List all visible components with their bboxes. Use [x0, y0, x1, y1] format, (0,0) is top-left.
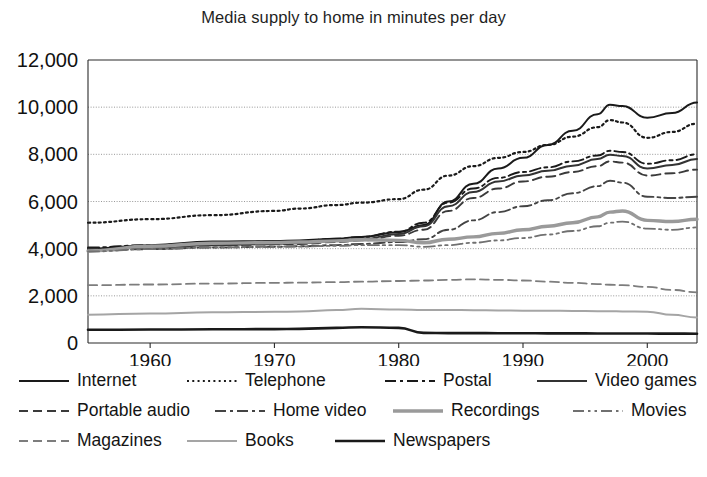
legend-item-books[interactable]: Books: [186, 432, 334, 450]
legend-label: Books: [245, 432, 294, 450]
legend-item-internet[interactable]: Internet: [18, 372, 186, 390]
series-line-magazines: [88, 279, 697, 292]
y-axis-tick-labels: 12,00010,0008,0006,0004,0002,0000: [17, 49, 78, 354]
legend-item-postal[interactable]: Postal: [384, 372, 536, 390]
x-tick-label: 1980: [378, 350, 420, 366]
legend-label: Home video: [273, 402, 366, 420]
series-line-newspapers: [88, 327, 697, 333]
data-series-group: [88, 102, 697, 333]
legend-row: Portable audioHome videoRecordingsMovies: [18, 396, 698, 426]
legend-label: Magazines: [77, 432, 162, 450]
y-tick-label: 12,000: [17, 49, 78, 71]
legend-label: Movies: [631, 402, 686, 420]
legend-line-sample-icon: [18, 404, 70, 418]
series-line-books: [88, 309, 697, 318]
x-tick-label: 2000: [626, 350, 668, 366]
legend-item-newspapers[interactable]: Newspapers: [334, 432, 490, 450]
x-tick-label: 1990: [502, 350, 544, 366]
legend-item-movies[interactable]: Movies: [572, 402, 686, 420]
legend-label: Newspapers: [393, 432, 490, 450]
x-tick-label: 1970: [253, 350, 295, 366]
legend-line-sample-icon: [186, 434, 238, 448]
x-axis-tick-labels: 19601970198019902000: [129, 343, 668, 366]
legend-item-recordings[interactable]: Recordings: [392, 402, 572, 420]
x-tick-label: 1960: [129, 350, 171, 366]
y-tick-label: 6,000: [28, 191, 78, 213]
legend-label: Video games: [595, 372, 697, 390]
y-tick-label: 8,000: [28, 143, 78, 165]
series-line-portable-audio: [88, 161, 697, 249]
legend-item-video-games[interactable]: Video games: [536, 372, 697, 390]
legend-line-sample-icon: [186, 374, 238, 388]
legend-line-sample-icon: [536, 374, 588, 388]
legend-row: InternetTelephonePostalVideo games: [18, 366, 698, 396]
legend-item-portable-audio[interactable]: Portable audio: [18, 402, 214, 420]
legend-line-sample-icon: [334, 434, 386, 448]
legend-line-sample-icon: [214, 404, 266, 418]
legend-label: Recordings: [451, 402, 540, 420]
legend-item-home-video[interactable]: Home video: [214, 402, 392, 420]
legend-line-sample-icon: [572, 404, 624, 418]
legend-label: Portable audio: [77, 402, 190, 420]
media-supply-line-chart: Media supply to home in minutes per day …: [0, 0, 707, 477]
legend-label: Postal: [443, 372, 492, 390]
y-tick-label: 2,000: [28, 285, 78, 307]
chart-legend: InternetTelephonePostalVideo gamesPortab…: [18, 366, 698, 456]
plot-area: 12,00010,0008,0006,0004,0002,0000 196019…: [0, 0, 707, 366]
legend-label: Internet: [77, 372, 136, 390]
legend-line-sample-icon: [18, 374, 70, 388]
legend-item-magazines[interactable]: Magazines: [18, 432, 186, 450]
y-tick-label: 4,000: [28, 238, 78, 260]
legend-line-sample-icon: [384, 374, 436, 388]
series-line-telephone: [88, 120, 697, 223]
legend-item-telephone[interactable]: Telephone: [186, 372, 384, 390]
legend-line-sample-icon: [392, 404, 444, 418]
grid-lines: [88, 60, 697, 343]
series-line-internet: [88, 102, 697, 248]
legend-row: MagazinesBooksNewspapers: [18, 426, 698, 456]
y-tick-label: 10,000: [17, 96, 78, 118]
legend-label: Telephone: [245, 372, 326, 390]
series-line-video-games: [88, 155, 697, 250]
y-tick-label: 0: [67, 332, 78, 354]
legend-line-sample-icon: [18, 434, 70, 448]
